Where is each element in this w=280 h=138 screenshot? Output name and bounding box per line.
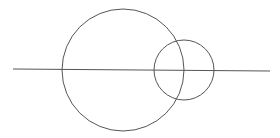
horizontal-line <box>13 69 270 71</box>
diagram-canvas <box>0 0 280 138</box>
